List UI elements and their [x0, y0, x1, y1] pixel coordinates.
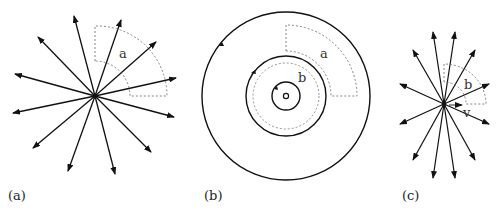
- diagram-figure: a a b: [0, 0, 498, 210]
- field-arrow: [400, 104, 444, 124]
- panel-b-circular-field: a b: [202, 12, 370, 180]
- velocity-label: v: [462, 105, 471, 120]
- field-arrow: [95, 96, 174, 117]
- moving-charge: [442, 102, 447, 107]
- panel-label-a: (a): [8, 188, 26, 203]
- field-arrow: [400, 84, 444, 104]
- middle-field-circle: [246, 56, 326, 136]
- field-arrow: [95, 96, 151, 152]
- field-arrow: [74, 16, 95, 96]
- dotted-circle-b: [253, 63, 319, 129]
- field-arrow: [15, 74, 95, 96]
- inner-field-circle: [272, 82, 300, 110]
- field-arrow: [13, 96, 95, 113]
- field-arrow: [433, 32, 444, 104]
- sector-a-label: a: [320, 46, 328, 61]
- sector-a-outline: [95, 26, 167, 96]
- panel-a-radial-field: a: [13, 16, 176, 174]
- field-arrow: [95, 78, 176, 96]
- panel-label-b: (b): [204, 188, 222, 203]
- center-wire: [283, 93, 288, 98]
- field-arrow: [95, 96, 115, 174]
- region-b-label: b: [298, 70, 306, 85]
- point-source: [93, 94, 98, 99]
- panel-label-c: (c): [402, 188, 419, 203]
- panel-c-moving-source-field: b v: [400, 32, 489, 178]
- field-arrow: [444, 32, 455, 104]
- sector-a-label: a: [119, 46, 127, 61]
- field-arrow: [38, 37, 95, 96]
- sector-b-label: b: [464, 77, 472, 92]
